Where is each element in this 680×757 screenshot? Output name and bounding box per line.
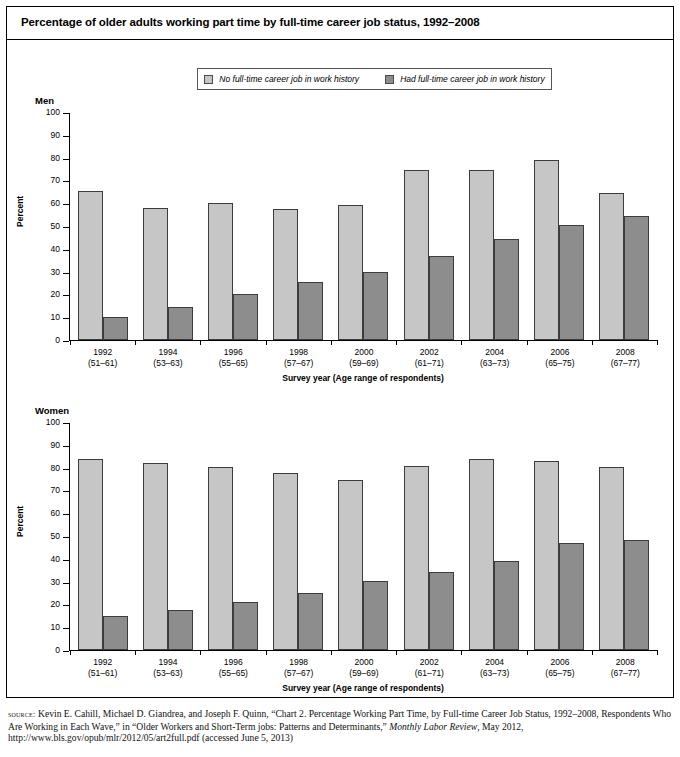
x-tick: [461, 340, 462, 345]
y-tick-label: 0: [55, 336, 60, 345]
bar-group: [200, 423, 265, 650]
bar: [559, 543, 584, 650]
bar: [298, 593, 323, 650]
bar: [534, 461, 559, 650]
title-divider: [7, 39, 673, 40]
bar: [404, 170, 429, 340]
x-axis-label: 1992(51–61): [70, 657, 135, 679]
panel-title-women: Women: [35, 405, 69, 416]
bar: [363, 581, 388, 650]
x-tick: [135, 340, 136, 345]
plot-area-women: 1009080706050403020100: [69, 423, 657, 651]
x-tick: [200, 340, 201, 345]
bar-group: [331, 423, 396, 650]
y-tick-label: 40: [51, 245, 60, 254]
x-label-year: 1996: [201, 657, 266, 668]
x-axis-label: 2000(59–69): [331, 657, 396, 679]
bar-groups-men: [70, 113, 657, 340]
bar: [103, 616, 128, 651]
y-tick-label: 70: [51, 486, 60, 495]
y-tick: 50: [63, 537, 69, 538]
bar-group: [396, 423, 461, 650]
y-tick-label: 50: [51, 222, 60, 231]
x-tick: [461, 650, 462, 655]
plot-area-men: 1009080706050403020100: [69, 113, 657, 341]
y-tick-label: 20: [51, 600, 60, 609]
y-tick-label: 10: [51, 313, 60, 322]
x-label-year: 2004: [462, 347, 527, 358]
x-label-agerange: (59–69): [331, 668, 396, 679]
bar: [494, 239, 519, 340]
bar: [233, 294, 258, 340]
bar-group: [461, 113, 526, 340]
bar: [559, 225, 584, 340]
bar-group: [266, 423, 331, 650]
legend-label-had-career-job: Had full-time career job in work history: [400, 74, 545, 84]
x-axis-label: 2004(63–73): [462, 657, 527, 679]
bar-group: [461, 423, 526, 650]
x-axis-label: 1996(55–65): [201, 657, 266, 679]
x-tick: [200, 650, 201, 655]
y-tick: 30: [63, 583, 69, 584]
y-tick: 80: [63, 159, 69, 160]
y-tick: 60: [63, 514, 69, 515]
x-tick: [592, 340, 593, 345]
x-label-agerange: (51–61): [70, 358, 135, 369]
x-label-year: 1992: [70, 657, 135, 668]
source-prefix: source:: [8, 709, 36, 719]
x-label-agerange: (57–67): [266, 668, 331, 679]
panel-men: Men Percent 1009080706050403020100 1992(…: [7, 95, 673, 395]
x-label-agerange: (55–65): [201, 358, 266, 369]
source-line-1: Kevin E. Cahill, Michael D. Giandrea, an…: [36, 708, 551, 719]
x-label-agerange: (53–63): [135, 668, 200, 679]
y-tick-label: 90: [51, 131, 60, 140]
bar: [404, 466, 429, 650]
y-tick: 70: [63, 491, 69, 492]
x-label-year: 2000: [331, 657, 396, 668]
y-tick-label: 100: [46, 108, 60, 117]
bar-group: [135, 423, 200, 650]
bar: [273, 209, 298, 340]
bar: [233, 602, 258, 650]
bar: [78, 191, 103, 340]
y-tick: 80: [63, 469, 69, 470]
bar: [78, 459, 103, 650]
legend-swatch-dark-icon: [385, 75, 394, 84]
bar: [624, 216, 649, 340]
x-axis-label: 2004(63–73): [462, 347, 527, 369]
bar: [429, 256, 454, 340]
panel-women: Women Percent 1009080706050403020100 199…: [7, 405, 673, 705]
x-label-year: 2000: [331, 347, 396, 358]
x-axis-label: 1996(55–65): [201, 347, 266, 369]
y-tick-label: 100: [46, 418, 60, 427]
y-tick: 40: [63, 560, 69, 561]
bar: [624, 540, 649, 650]
x-label-year: 1998: [266, 347, 331, 358]
x-label-agerange: (59–69): [331, 358, 396, 369]
y-tick-label: 30: [51, 578, 60, 587]
x-label-year: 1998: [266, 657, 331, 668]
y-tick: 20: [63, 295, 69, 296]
x-axis-men: [69, 340, 657, 341]
x-label-agerange: (61–71): [397, 668, 462, 679]
x-label-year: 2008: [593, 657, 658, 668]
y-tick-label: 60: [51, 199, 60, 208]
bar: [338, 205, 363, 340]
x-label-agerange: (55–65): [201, 668, 266, 679]
x-tick: [657, 650, 658, 655]
y-tick-label: 60: [51, 509, 60, 518]
legend-label-no-career-job: No full-time career job in work history: [219, 74, 359, 84]
y-tick-label: 80: [51, 464, 60, 473]
y-tick: 40: [63, 250, 69, 251]
y-tick: 30: [63, 273, 69, 274]
y-tick-label: 80: [51, 154, 60, 163]
y-tick: 100: [63, 113, 69, 114]
x-label-year: 2006: [527, 657, 592, 668]
x-label-agerange: (53–63): [135, 358, 200, 369]
y-tick-label: 50: [51, 532, 60, 541]
figure-frame: Percentage of older adults working part …: [6, 6, 674, 698]
x-axis-label: 2002(61–71): [397, 347, 462, 369]
bar-group: [135, 113, 200, 340]
bar: [208, 467, 233, 650]
x-label-agerange: (65–75): [527, 668, 592, 679]
